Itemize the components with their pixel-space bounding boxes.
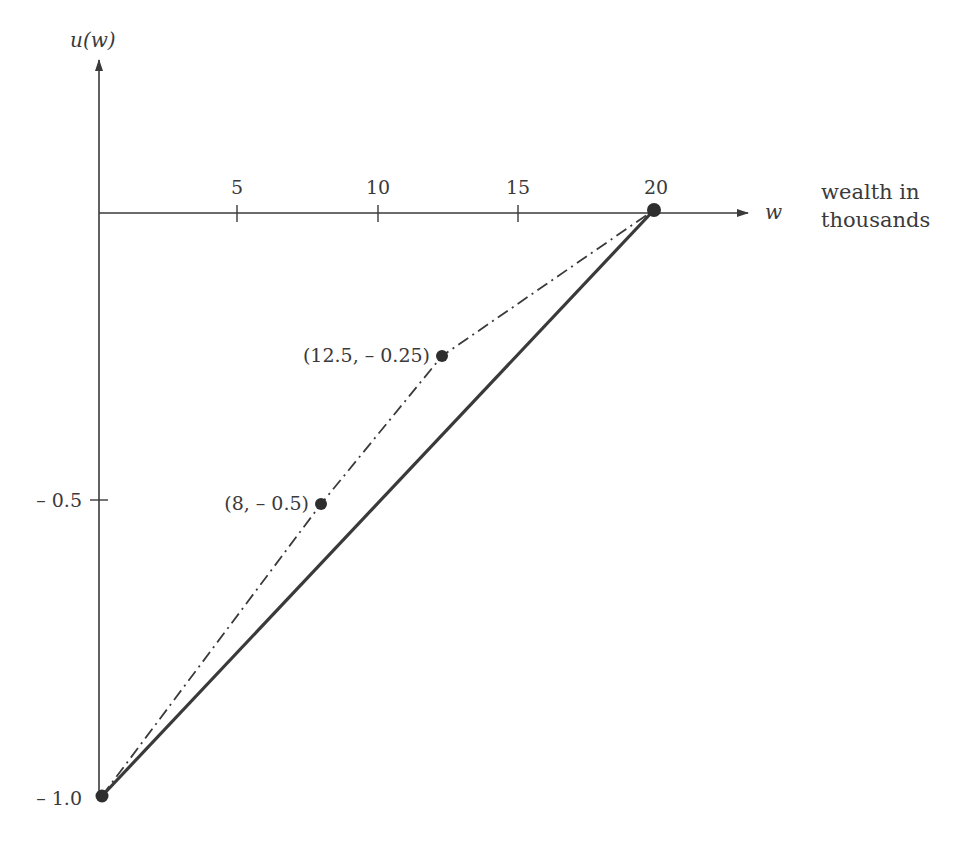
linear-chord-line bbox=[102, 210, 654, 796]
x-axis-label: w bbox=[765, 200, 782, 224]
point-20 bbox=[647, 203, 661, 217]
point-12-5 bbox=[436, 350, 448, 362]
x-axis-note-line1: wealth in bbox=[821, 180, 920, 204]
point-origin bbox=[96, 790, 109, 803]
y-axis-label: u(w) bbox=[70, 28, 116, 52]
chart: u(w) w wealth in thousands 5 10 15 20 – … bbox=[0, 0, 965, 842]
annotation-12-5: (12.5, – 0.25) bbox=[303, 344, 430, 366]
x-tick-label-15: 15 bbox=[506, 176, 530, 198]
y-tick-label-minus-1-0: – 1.0 bbox=[36, 787, 82, 809]
x-axis-note-line2: thousands bbox=[821, 208, 930, 232]
x-tick-label-20: 20 bbox=[644, 176, 668, 198]
annotation-8: (8, – 0.5) bbox=[224, 492, 309, 514]
y-tick-label-minus-0-5: – 0.5 bbox=[36, 489, 82, 511]
x-tick-label-10: 10 bbox=[366, 176, 390, 198]
point-8 bbox=[315, 498, 327, 510]
x-tick-label-5: 5 bbox=[231, 176, 243, 198]
